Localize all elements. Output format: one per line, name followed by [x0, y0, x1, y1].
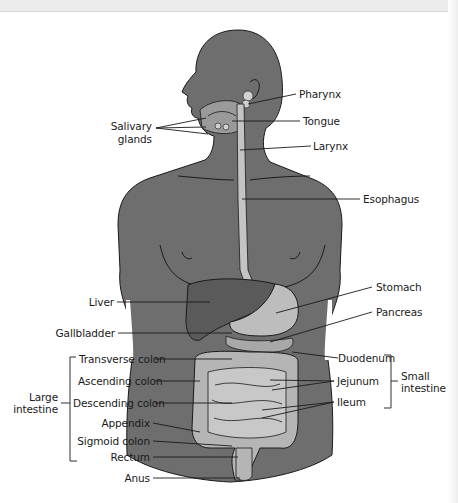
label-small-intestine: Small intestine	[401, 370, 446, 394]
label-pancreas: Pancreas	[376, 306, 422, 318]
label-sigmoid-colon: Sigmoid colon	[70, 435, 150, 447]
label-duodenum: Duodenum	[338, 352, 395, 364]
label-tongue: Tongue	[303, 115, 340, 127]
label-stomach: Stomach	[376, 281, 422, 293]
digestive-system-illustration	[0, 0, 458, 503]
label-salivary-glands: Salivary glands	[82, 120, 152, 146]
label-esophagus: Esophagus	[363, 193, 419, 205]
label-large-intestine: Large intestine	[10, 391, 58, 415]
label-small-line1: Small	[401, 370, 446, 382]
label-salivary-line2: glands	[82, 133, 152, 146]
label-rectum: Rectum	[90, 451, 150, 463]
label-small-line2: intestine	[401, 382, 446, 394]
label-ascending-colon: Ascending colon	[78, 375, 162, 387]
label-jejunum: Jejunum	[337, 375, 379, 387]
label-liver: Liver	[60, 296, 114, 308]
label-salivary-line1: Salivary	[82, 120, 152, 133]
label-transverse-colon: Transverse colon	[79, 353, 166, 365]
label-pharynx: Pharynx	[299, 88, 341, 100]
label-anus: Anus	[90, 472, 150, 484]
label-large-line1: Large	[10, 391, 58, 403]
label-descending-colon: Descending colon	[73, 397, 165, 409]
label-large-line2: intestine	[10, 403, 58, 415]
label-gallbladder: Gallbladder	[40, 327, 115, 339]
label-appendix: Appendix	[80, 417, 150, 429]
rectum-shape	[236, 448, 252, 481]
label-ileum: Ileum	[337, 396, 366, 408]
label-larynx: Larynx	[313, 140, 348, 152]
